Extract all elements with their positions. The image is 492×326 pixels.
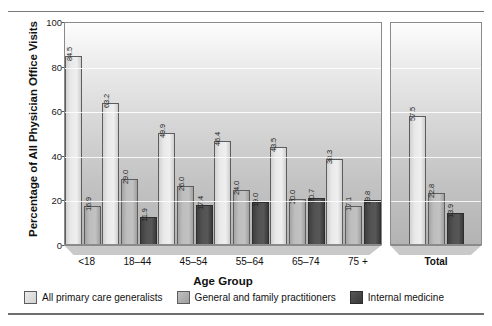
chart-figure: Percentage of All Physician Office Visit… xyxy=(0,0,492,326)
legend-item-0: All primary care generalists xyxy=(24,291,163,304)
bar-value-label: 57.5 xyxy=(408,107,417,121)
bar-group-total: 57.522.813.9 xyxy=(409,23,464,244)
bar-g3-series-1: 24.0 xyxy=(233,190,250,244)
bar-value-label: 19.8 xyxy=(363,191,372,205)
x-label-4: 65–74 xyxy=(292,256,320,267)
bar-g5-series-1: 17.1 xyxy=(345,206,362,244)
bar-value-label: 84.5 xyxy=(65,47,74,61)
legend-item-2: Internal medicine xyxy=(350,291,444,304)
y-axis-tick-labels: 100806040200 xyxy=(36,16,62,246)
bar-group-4: 43.520.020.7 xyxy=(270,23,325,244)
x-axis-base-total xyxy=(390,245,482,255)
bar-groups-container: 84.516.963.229.011.949.926.017.446.424.0… xyxy=(65,23,381,244)
legend-label-2: Internal medicine xyxy=(368,292,444,303)
x-label-total: Total xyxy=(424,256,447,267)
legend-label-1: General and family practitioners xyxy=(195,292,336,303)
bar-g1-series-1: 29.0 xyxy=(121,179,138,244)
bar-value-label: 43.5 xyxy=(269,138,278,152)
y-tick-label-100: 100 xyxy=(36,17,62,28)
bar-total-series-2: 13.9 xyxy=(447,213,464,244)
bar-g4-series-2: 20.7 xyxy=(308,198,325,244)
x-label-1: 18–44 xyxy=(123,256,151,267)
bar-g0-series-1: 16.9 xyxy=(84,206,101,244)
bar-group-total-container: 57.522.813.9 xyxy=(391,23,481,244)
y-tick-label-20: 20 xyxy=(36,195,62,206)
bar-g2-series-2: 17.4 xyxy=(196,205,213,244)
bar-g2-series-1: 26.0 xyxy=(177,186,194,244)
bottom-divider-rule xyxy=(8,313,484,315)
bar-group-3: 46.424.019.0 xyxy=(214,23,269,244)
x-axis-base-main xyxy=(64,245,382,255)
x-label-0: <18 xyxy=(78,256,95,267)
x-axis-title: Age Group xyxy=(64,275,382,287)
bar-value-label: 13.9 xyxy=(446,204,455,218)
bar-group-5: 38.317.119.8 xyxy=(326,23,381,244)
bar-value-label: 22.8 xyxy=(427,184,436,198)
legend-swatch-icon-2 xyxy=(350,291,363,304)
chart-legend: All primary care generalistsGeneral and … xyxy=(24,291,472,304)
gridline-20 xyxy=(391,201,481,202)
x-axis-total-label: Total xyxy=(390,256,482,267)
bar-g2-series-0: 49.9 xyxy=(158,133,175,244)
bar-value-label: 26.0 xyxy=(177,177,186,191)
bar-g1-series-0: 63.2 xyxy=(102,103,119,244)
bar-g0-series-0: 84.5 xyxy=(65,56,82,244)
gridline-20 xyxy=(65,201,381,202)
bar-group-2: 49.926.017.4 xyxy=(158,23,213,244)
gridline-60 xyxy=(391,112,481,113)
x-label-5: 75 + xyxy=(348,256,368,267)
bar-value-label: 46.4 xyxy=(213,132,222,146)
bar-total-series-0: 57.5 xyxy=(409,116,426,244)
legend-swatch-icon-0 xyxy=(24,291,37,304)
gridline-80 xyxy=(65,68,381,69)
y-tick-label-40: 40 xyxy=(36,150,62,161)
bar-value-label: 24.0 xyxy=(232,182,241,196)
gridline-80 xyxy=(391,68,481,69)
bar-value-label: 49.9 xyxy=(158,124,167,138)
bar-value-label: 19.0 xyxy=(251,193,260,207)
y-tick-label-60: 60 xyxy=(36,106,62,117)
gridline-60 xyxy=(65,112,381,113)
bar-group-0: 84.516.9 xyxy=(65,23,101,244)
bar-value-label: 17.4 xyxy=(196,196,205,210)
y-tick-label-0: 0 xyxy=(36,240,62,251)
bar-value-label: 16.9 xyxy=(84,197,93,211)
top-divider-rule xyxy=(8,11,484,12)
bar-g3-series-2: 19.0 xyxy=(252,202,269,244)
x-label-2: 45–54 xyxy=(180,256,208,267)
legend-item-1: General and family practitioners xyxy=(177,291,336,304)
bar-value-label: 63.2 xyxy=(102,94,111,108)
plot-area-total: 57.522.813.9 xyxy=(390,22,482,245)
plot-area-age-groups: 84.516.963.229.011.949.926.017.446.424.0… xyxy=(64,22,382,245)
bar-group-1: 63.229.011.9 xyxy=(102,23,157,244)
x-axis-category-labels: <1818–4445–5455–6465–7475 + xyxy=(64,256,382,267)
y-tick-label-80: 80 xyxy=(36,61,62,72)
bar-value-label: 17.1 xyxy=(344,197,353,211)
bar-g5-series-2: 19.8 xyxy=(364,200,381,244)
x-label-3: 55–64 xyxy=(236,256,264,267)
bar-g4-series-0: 43.5 xyxy=(270,147,287,244)
legend-label-0: All primary care generalists xyxy=(42,292,163,303)
bar-value-label: 11.9 xyxy=(140,209,149,222)
gridline-40 xyxy=(391,157,481,158)
bar-g1-series-2: 11.9 xyxy=(140,217,157,244)
bar-value-label: 29.0 xyxy=(121,170,130,184)
gridline-40 xyxy=(65,157,381,158)
bar-g4-series-1: 20.0 xyxy=(289,199,306,244)
legend-swatch-icon-1 xyxy=(177,291,190,304)
